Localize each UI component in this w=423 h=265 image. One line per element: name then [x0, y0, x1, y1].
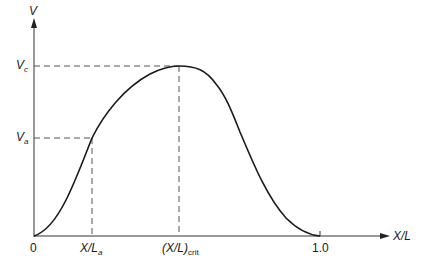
y-axis-label: V [29, 4, 37, 18]
xcrit-label: (X/L)crit [162, 241, 199, 257]
origin-label: 0 [30, 241, 37, 255]
chart-canvas [0, 0, 423, 265]
vc-label: Vc [16, 58, 28, 74]
xla-label: X/La [80, 241, 102, 257]
x-axis-arrow-icon [380, 233, 390, 239]
x-axis-label: X/L [393, 229, 411, 243]
guide-lines [34, 66, 179, 236]
y-axis-arrow-icon [31, 18, 37, 28]
va-label: Va [16, 130, 28, 146]
x-axis [34, 231, 390, 239]
curve [34, 66, 320, 236]
one-label: 1.0 [312, 241, 329, 255]
y-axis [31, 18, 37, 237]
